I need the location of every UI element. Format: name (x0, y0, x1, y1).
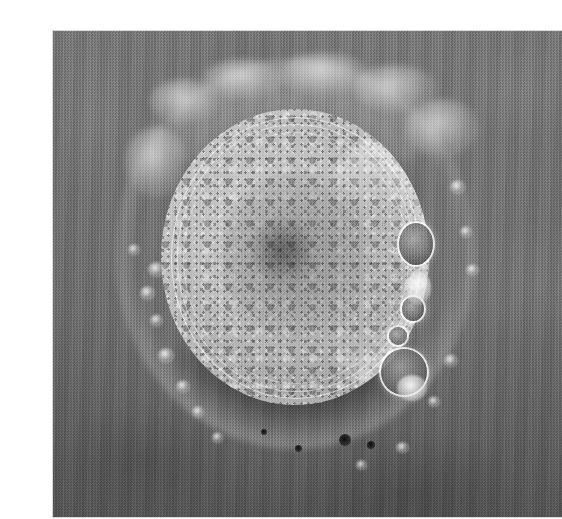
corona-cell (357, 461, 366, 469)
corona-cell (129, 245, 139, 254)
corona-cell (193, 407, 203, 417)
corona-cell (397, 443, 408, 452)
vesicle-upper-right (399, 223, 433, 265)
corona-cell (149, 263, 164, 276)
corona-cell (451, 181, 464, 193)
corona-cell (177, 381, 189, 392)
micrograph-plate (53, 31, 562, 517)
vesicle-glow-right (405, 271, 431, 305)
corona-cell (467, 265, 478, 275)
corona-cell (141, 287, 154, 299)
corona-cell (159, 349, 173, 362)
corona-cell (151, 315, 162, 326)
vesicle-small-right (389, 327, 407, 345)
dark-granule (367, 441, 375, 449)
corona-cell (461, 227, 471, 237)
corona-cell (429, 397, 439, 406)
dark-granule (295, 445, 302, 452)
corona-cell (445, 355, 457, 366)
vesicle-glow-right-lower (397, 375, 427, 401)
dark-granule (339, 434, 351, 446)
corona-cell (213, 433, 222, 442)
dark-granule (261, 429, 267, 435)
